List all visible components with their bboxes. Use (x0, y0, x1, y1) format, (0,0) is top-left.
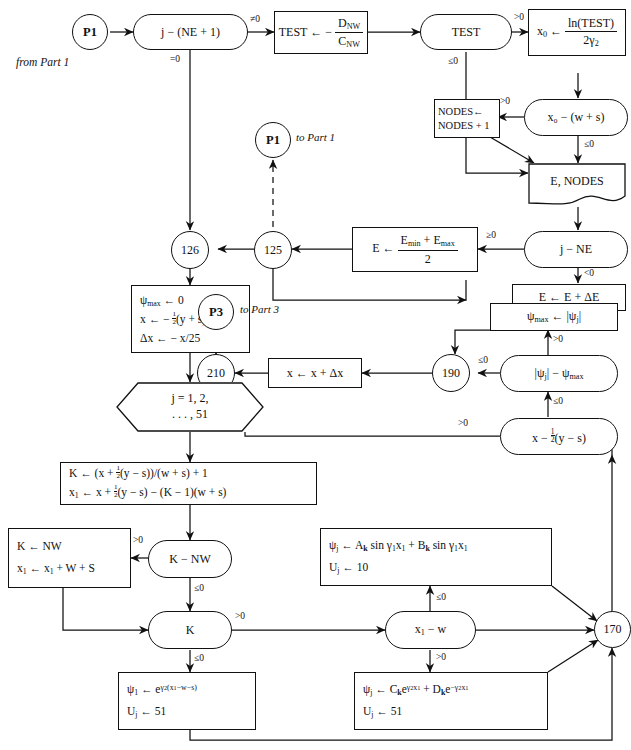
decision-x1-minus-w-label: x1 − w (415, 621, 447, 638)
process-x-step-label: x ← x + Δx (287, 365, 343, 381)
connector-126[interactable]: 126 (171, 231, 209, 269)
connector-p3-out-label: P3 (209, 304, 223, 321)
k-clamp-line-2: x1 ← x1 + W + S (17, 558, 130, 580)
edge-label-le-zero-knw: ≤0 (194, 583, 204, 593)
connector-p1-in[interactable]: P1 (72, 14, 108, 50)
process-test-assign[interactable]: TEST ← − DNW CNW (274, 11, 368, 54)
edge-label-gt-zero-x0: >0 (500, 96, 510, 106)
decision-j-minus-ne1-label: j − (NE + 1) (161, 24, 220, 40)
process-psi-trigonometric-text: ψj ← Ak sin γ1x1 + Bk sin γ1x1 Uj ← 10 (321, 535, 551, 579)
process-nodes-increment-text: NODES← NODES + 1 (435, 105, 499, 131)
process-k-clamp[interactable]: K ← NW x1 ← x1 + W + S (8, 528, 131, 588)
edge-label-le-zero-x0: ≤0 (584, 139, 594, 149)
psi-exp-line-2: Uj ← 51 (363, 701, 547, 723)
edge-label-eq-zero: =0 (170, 54, 180, 64)
decision-k-minus-nw[interactable]: K − NW (148, 540, 232, 578)
edge-label-gt-zero-k: >0 (235, 611, 245, 621)
decision-x0-minus-w-s-label: x₀ − (w + s) (547, 109, 604, 125)
decision-k[interactable]: K (148, 611, 232, 649)
decision-x1-minus-w[interactable]: x1 − w (385, 611, 476, 649)
process-psi1-exponential[interactable]: ψ1 ← eγ2(x1−w−s) Uj ← 51 (118, 672, 256, 730)
decision-x-minus-half-y-s[interactable]: x − 12(y − s) (500, 418, 618, 455)
connector-125[interactable]: 125 (254, 231, 292, 269)
init-line-3: Δx ← − x/25 (140, 329, 249, 347)
process-psimax-update-label: ψmax ← |ψj| (527, 308, 581, 325)
process-x0-assign[interactable]: x0 ← ln(TEST) 2γ2 (528, 9, 626, 56)
decision-x-minus-half-y-s-label: x − 12(y − s) (532, 428, 586, 446)
edge-label-lt-zero-jne: <0 (584, 268, 594, 278)
connector-170-label: 170 (604, 621, 622, 637)
process-psimax-update[interactable]: ψmax ← |ψj| (490, 303, 618, 331)
edge-label-ne-zero: ≠0 (250, 14, 260, 24)
k-calc-line-2: x1 ← x + 12(y − s) − (K − 1)(w + s) (69, 483, 316, 503)
document-e-nodes-label: E, NODES (550, 173, 603, 189)
process-e-bisection[interactable]: E ← Emin + Emax 2 (352, 227, 478, 272)
process-k-calculation-text: K ← (x + 12(y − s))/(w + s) + 1 x1 ← x +… (61, 464, 316, 503)
process-test-assign-label: TEST ← − DNW CNW (279, 15, 363, 51)
to-part-3-note: to Part 3 (240, 303, 279, 315)
decision-k-minus-nw-label: K − NW (169, 551, 210, 567)
psi-exp-line-1: ψj ← Ckeγ2x1 + Dke−γ2x1 (363, 679, 547, 701)
edge-label-le-zero-psi: ≤0 (478, 355, 488, 365)
connector-p3-out[interactable]: P3 (198, 294, 234, 330)
decision-psi-abs-minus-psimax-label: |ψj| − ψmax (535, 365, 584, 382)
connector-126-label: 126 (181, 242, 199, 258)
decision-k-label: K (186, 622, 195, 638)
decision-j-minus-ne-label: j − NE (560, 241, 592, 257)
loop-j-range[interactable]: j = 1, 2, . . . , 51 (116, 382, 264, 432)
process-psi-exponential-text: ψj ← Ckeγ2x1 + Dke−γ2x1 Uj ← 51 (355, 679, 547, 723)
process-psi-exponential[interactable]: ψj ← Ckeγ2x1 + Dke−γ2x1 Uj ← 51 (354, 672, 548, 730)
connector-190[interactable]: 190 (432, 354, 470, 392)
flowchart-canvas: P1 from Part 1 j − (NE + 1) ≠0 =0 TEST ←… (0, 0, 631, 750)
decision-x0-minus-w-s[interactable]: x₀ − (w + s) (524, 99, 628, 136)
edge-label-ge-zero-jne: ≥0 (486, 230, 496, 240)
edge-label-gt-zero-xhalf: >0 (458, 418, 468, 428)
decision-j-minus-ne[interactable]: j − NE (524, 231, 628, 268)
to-part-1-note: to Part 1 (296, 131, 335, 143)
psi1-exp-line-2: Uj ← 51 (127, 701, 255, 723)
decision-test[interactable]: TEST (420, 14, 512, 50)
edge-label-le-zero-x1w: ≤0 (436, 592, 446, 602)
process-k-calculation[interactable]: K ← (x + 12(y − s))/(w + s) + 1 x1 ← x +… (60, 462, 317, 505)
edge-label-le-zero-k: ≤0 (194, 653, 204, 663)
k-calc-line-1: K ← (x + 12(y − s))/(w + s) + 1 (69, 464, 316, 483)
process-x0-assign-label: x0 ← ln(TEST) 2γ2 (537, 15, 617, 49)
process-k-clamp-text: K ← NW x1 ← x1 + W + S (9, 536, 130, 580)
from-part-1-note: from Part 1 (16, 56, 69, 68)
decision-psi-abs-minus-psimax[interactable]: |ψj| − ψmax (500, 355, 618, 392)
process-e-bisection-label: E ← Emin + Emax 2 (372, 232, 458, 266)
connector-170[interactable]: 170 (594, 611, 631, 648)
connector-p1-out-label: P1 (266, 132, 280, 149)
document-e-nodes[interactable]: E, NODES (528, 163, 626, 207)
connector-190-label: 190 (442, 365, 460, 381)
k-clamp-line-1: K ← NW (17, 536, 130, 558)
edge-label-le-zero-xhalf: ≤0 (553, 396, 563, 406)
connector-p1-out[interactable]: P1 (255, 122, 291, 158)
process-nodes-increment[interactable]: NODES← NODES + 1 (434, 99, 500, 138)
psi1-exp-line-1: ψ1 ← eγ2(x1−w−s) (127, 679, 255, 701)
edge-label-gt-zero-x1w: >0 (436, 652, 446, 662)
connector-125-label: 125 (264, 242, 282, 258)
psi-trig-line-2: Uj ← 10 (329, 557, 551, 579)
edge-label-gt-zero-test: >0 (514, 12, 524, 22)
edge-label-le-zero-test: ≤0 (448, 56, 458, 66)
process-x-step[interactable]: x ← x + Δx (268, 358, 362, 388)
decision-j-minus-ne1[interactable]: j − (NE + 1) (133, 14, 248, 50)
connector-210-label: 210 (207, 365, 225, 381)
connector-p1-in-label: P1 (83, 24, 97, 41)
edge-label-gt-zero-knw: >0 (133, 535, 143, 545)
process-psi-trigonometric[interactable]: ψj ← Ak sin γ1x1 + Bk sin γ1x1 Uj ← 10 (320, 528, 552, 586)
process-psi1-exponential-text: ψ1 ← eγ2(x1−w−s) Uj ← 51 (119, 679, 255, 723)
loop-j-range-text: j = 1, 2, . . . , 51 (171, 391, 208, 422)
edge-label-gt-zero-psi: >0 (553, 334, 563, 344)
psi-trig-line-1: ψj ← Ak sin γ1x1 + Bk sin γ1x1 (329, 535, 551, 557)
decision-test-label: TEST (452, 24, 481, 40)
